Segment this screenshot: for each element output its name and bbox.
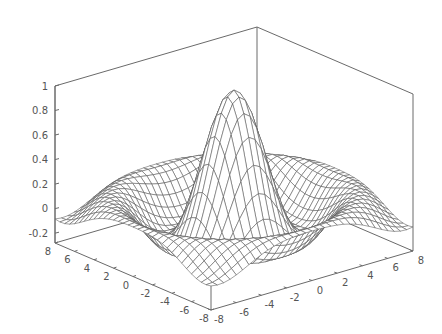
y-tick-label: 4 [84,263,90,274]
x-tick [360,265,363,266]
x-tick-label: 0 [317,285,323,296]
surface-mesh [55,90,413,286]
x-tick [284,287,287,288]
z-tick-label: -0.2 [28,228,48,239]
z-tick-label: 1 [42,81,48,92]
x-tick-label: -2 [290,292,300,303]
x-tick [233,302,236,303]
z-tick-label: 0 [42,203,48,214]
y-tick [192,301,195,302]
y-tick-label: 0 [123,280,129,291]
x-tick-label: -4 [265,299,275,310]
y-tick [114,267,117,268]
x-tick [259,294,262,295]
z-tick [55,134,59,135]
z-tick [55,183,59,184]
z-tick-label: 0.6 [32,130,48,141]
x-tick-label: -6 [239,307,249,318]
y-tick [172,292,175,293]
x-tick-label: 4 [367,270,373,281]
z-tick [55,159,59,160]
surface-plot: -0.200.20.40.60.81 86420-2-4-6-8 -8-6-4-… [0,0,442,334]
y-tick [75,250,78,251]
x-tick-label: 2 [342,277,348,288]
y-tick-label: -8 [199,313,209,324]
x-tick [385,257,388,258]
z-tick [55,208,59,209]
x-tick-label: 8 [418,255,424,266]
y-tick-label: -6 [180,305,190,316]
x-tick [334,272,337,273]
z-tick-label: 0.8 [32,105,48,116]
z-tick [55,232,59,233]
y-tick-label: -2 [141,288,151,299]
y-tick-label: 8 [45,246,51,257]
z-tick-label: 0.2 [32,179,48,190]
z-tick [55,110,59,111]
x-tick [309,280,312,281]
z-tick-label: 0.4 [32,154,48,165]
y-tick-label: -4 [160,296,170,307]
y-tick [94,259,97,260]
box-edge [55,27,257,86]
y-tick-label: 6 [64,254,70,265]
z-tick [55,85,59,86]
z-axis: -0.200.20.40.60.81 [28,81,59,239]
y-tick [153,284,156,285]
x-tick-label: 6 [393,262,399,273]
box-edge [257,27,413,94]
y-tick-label: 2 [103,271,109,282]
x-tick-label: -8 [214,314,224,325]
y-tick [133,276,136,277]
